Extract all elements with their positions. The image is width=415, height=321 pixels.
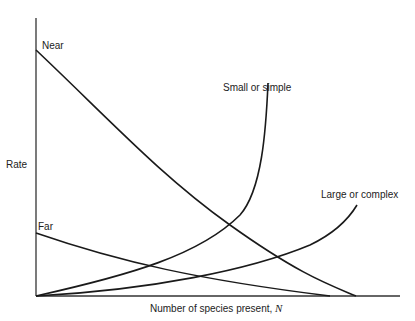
curve-far (36, 233, 330, 296)
label-small-or-simple: Small or simple (223, 82, 291, 93)
chart-container: Near Far Small or simple Large or comple… (0, 0, 415, 321)
label-far: Far (38, 221, 53, 232)
x-axis-label-text: Number of species present, (150, 303, 272, 314)
x-axis-variable: N (275, 302, 282, 314)
x-axis-label: Number of species present, N (150, 302, 282, 314)
label-large-or-complex: Large or complex (321, 189, 398, 200)
y-axis-label: Rate (6, 159, 27, 170)
curve-near (36, 50, 356, 296)
curve-small-or-simple (36, 83, 268, 296)
curve-large-or-complex (36, 205, 357, 296)
label-near: Near (42, 40, 64, 51)
